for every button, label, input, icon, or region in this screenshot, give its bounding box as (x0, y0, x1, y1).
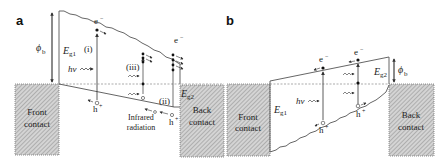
svg-text:g2: g2 (380, 71, 388, 79)
svg-text:g2: g2 (187, 93, 195, 101)
svg-text:hν: hν (68, 64, 77, 74)
svg-text:ϕ: ϕ (398, 64, 403, 75)
svg-text:Infrared: Infrared (128, 113, 154, 122)
svg-text:(ii): (ii) (159, 96, 170, 106)
svg-text:contact: contact (24, 119, 50, 129)
svg-text:h: h (319, 125, 324, 135)
svg-text:−: − (360, 46, 364, 52)
panel-b: b Front contact Back contact E g1 E g2 ϕ… (226, 13, 434, 156)
svg-text:+: + (175, 116, 179, 122)
svg-text:contact: contact (189, 117, 215, 127)
panel-label-b: b (226, 13, 234, 28)
barrier-height-a: ϕ b (36, 13, 52, 82)
svg-text:e: e (354, 47, 358, 57)
svg-text:−: − (325, 53, 329, 59)
valence-band-b (270, 84, 389, 152)
svg-text:+: + (325, 124, 329, 130)
svg-text:−: − (100, 15, 104, 21)
conduction-band-b (270, 57, 389, 84)
svg-text:b: b (42, 48, 46, 56)
front-contact-b: Front contact (227, 84, 270, 156)
svg-text:e: e (319, 54, 323, 64)
svg-text:contact: contact (398, 122, 424, 132)
svg-text:contact: contact (235, 123, 261, 133)
svg-text:Front: Front (238, 112, 258, 122)
svg-text:−: − (180, 34, 184, 40)
svg-text:+: + (362, 108, 366, 114)
svg-text:ϕ: ϕ (36, 42, 41, 53)
svg-text:hν: hν (296, 96, 305, 106)
svg-text:Front: Front (27, 107, 47, 117)
svg-text:Back: Back (402, 110, 421, 120)
svg-text:(i): (i) (84, 44, 93, 54)
svg-text:h: h (356, 109, 361, 119)
svg-text:b: b (404, 70, 408, 78)
svg-text:radiation: radiation (127, 123, 155, 132)
svg-text:g1: g1 (69, 50, 77, 58)
valence-band-a (59, 84, 174, 107)
svg-text:g1: g1 (280, 109, 288, 117)
svg-text:h: h (93, 104, 98, 114)
conduction-band-a (59, 11, 180, 84)
barrier-height-b: ϕ b (394, 59, 408, 82)
svg-text:(iii): (iii) (126, 62, 140, 72)
svg-text:e: e (174, 35, 178, 45)
svg-text:+: + (99, 103, 103, 109)
back-contact-b: Back contact (389, 84, 434, 156)
svg-text:e: e (94, 16, 98, 26)
svg-text:h: h (169, 117, 174, 127)
svg-text:Back: Back (193, 105, 212, 115)
panel-label-a: a (16, 13, 24, 28)
panel-a: a Front contact Back contact ϕ b E g (15, 11, 224, 157)
band-diagram-figure: a Front contact Back contact ϕ b E g (0, 0, 448, 167)
front-contact-a: Front contact (15, 84, 59, 155)
